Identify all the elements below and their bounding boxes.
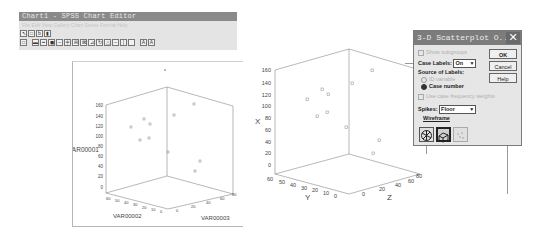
svg-text:20: 20: [265, 150, 271, 156]
svg-text:0: 0: [362, 191, 365, 197]
z-axis-ticks: 0 20 40 60 80: [362, 173, 422, 197]
dialog-title-bar[interactable]: 3-D Scatterplot O... ✕: [414, 31, 521, 45]
svg-text:120: 120: [95, 124, 103, 129]
x-axis-ticks: 60 50 40 30 20 10 0: [106, 196, 163, 214]
chart-editor-window: Chart1 - SPSS Chart Editor File Edit Vie…: [19, 12, 237, 50]
font-button[interactable]: A: [148, 39, 155, 46]
svg-text:60: 60: [220, 196, 225, 201]
svg-text:60: 60: [98, 154, 104, 159]
svg-text:80: 80: [416, 173, 422, 179]
no-wireframe-icon: [454, 129, 467, 142]
svg-text:50: 50: [279, 179, 285, 185]
svg-text:100: 100: [95, 134, 103, 139]
svg-text:140: 140: [262, 80, 271, 86]
svg-text:40: 40: [124, 200, 129, 205]
line-style-button[interactable]: ─: [112, 39, 119, 46]
editor-menu-bar[interactable]: File Edit View Gallery Chart Series Form…: [19, 21, 237, 29]
cancel-button[interactable]: Cancel: [489, 61, 517, 71]
boxplot-button[interactable]: ⊟: [72, 39, 79, 46]
svg-text:40: 40: [98, 164, 104, 169]
line-chart-button[interactable]: ━: [40, 39, 47, 46]
wireframe-label: Wireframe: [423, 115, 450, 121]
svg-text:20: 20: [142, 205, 147, 210]
svg-text:60: 60: [106, 196, 111, 201]
wireframe-none-button[interactable]: [453, 127, 468, 142]
marker-button[interactable]: |: [120, 39, 127, 46]
bold-tool-button[interactable]: b: [36, 30, 43, 37]
svg-text:20: 20: [312, 187, 318, 193]
svg-text:50: 50: [115, 198, 120, 203]
svg-text:10: 10: [151, 207, 156, 212]
show-subgroups-checkbox[interactable]: Show subgroups: [418, 49, 467, 56]
ok-button[interactable]: OK: [489, 49, 517, 59]
toolbar-row-2: □ ▬ ━ ◼ ─ ╪ ⊟ ⊠ ⊿ ↻ △ ─ | A A: [19, 38, 237, 47]
svg-text:0: 0: [334, 193, 337, 199]
svg-text:30: 30: [133, 202, 138, 207]
wireframe-full-button[interactable]: [419, 127, 434, 142]
spikes-select[interactable]: Floor▼: [439, 105, 476, 114]
x-axis-label: VAR00002: [113, 213, 142, 219]
hilo-chart-button[interactable]: ╪: [64, 39, 71, 46]
swap-axes-button[interactable]: ↻: [96, 39, 103, 46]
z-axis-label: Z: [387, 193, 392, 202]
chart-editor-canvas: 160 140 120 100 80 60 40 20 0 VAR00001 6…: [72, 61, 243, 227]
svg-text:80: 80: [232, 192, 237, 197]
guide-line-right: [507, 146, 508, 194]
help-button[interactable]: Help: [489, 73, 517, 83]
data-markers: [130, 103, 201, 172]
text-button[interactable]: A: [140, 39, 147, 46]
toolbar-row-1: ↖ □ b ▮: [19, 29, 237, 38]
spin-button[interactable]: △: [104, 39, 111, 46]
id-variable-radio[interactable]: ID variable: [421, 76, 455, 83]
svg-text:0: 0: [100, 185, 103, 190]
chevron-down-icon: ▼: [469, 106, 474, 113]
color-button[interactable]: [128, 39, 135, 46]
frame-tool-button[interactable]: □: [28, 30, 35, 37]
data-markers: [306, 69, 381, 155]
svg-text:0: 0: [176, 208, 179, 213]
svg-text:140: 140: [95, 114, 103, 119]
scatter-button[interactable]: ⊠: [80, 39, 87, 46]
chart-type-button[interactable]: □: [20, 39, 27, 46]
histogram-button[interactable]: ⊿: [88, 39, 95, 46]
editor-title-bar: Chart1 - SPSS Chart Editor: [19, 12, 237, 21]
bar-chart-button[interactable]: ▬: [32, 39, 39, 46]
svg-text:160: 160: [95, 103, 103, 108]
dialog-title: 3-D Scatterplot O...: [417, 33, 513, 42]
wireframe-partial-button[interactable]: [436, 127, 451, 142]
close-icon[interactable]: ✕: [506, 32, 520, 44]
svg-text:0: 0: [160, 209, 163, 214]
svg-text:80: 80: [265, 115, 271, 121]
svg-text:10: 10: [323, 190, 329, 196]
svg-text:30: 30: [301, 185, 307, 191]
svg-text:60: 60: [408, 178, 414, 184]
x-axis-ticks: 160 140 120 100 80 60 40 20 0: [262, 67, 271, 168]
svg-text:60: 60: [267, 176, 273, 182]
spikes-row: Spikes: Floor▼: [418, 105, 476, 114]
svg-text:40: 40: [206, 200, 211, 205]
svg-text:20: 20: [191, 204, 196, 209]
case-labels-row: Case Labels: On▼: [418, 59, 476, 68]
source-of-labels-heading: Source of Labels:: [418, 69, 464, 75]
use-frequency-weights-checkbox[interactable]: Use case frequency weights: [418, 93, 495, 100]
select-tool-button[interactable]: ↖: [20, 30, 27, 37]
area-chart-button[interactable]: ◼: [48, 39, 55, 46]
svg-text:40: 40: [265, 139, 271, 145]
scatterplot-3d-var: 160 140 120 100 80 60 40 20 0 VAR00001 6…: [73, 62, 243, 226]
svg-text:20: 20: [98, 174, 104, 179]
x-axis-label: X: [255, 117, 261, 126]
case-number-radio[interactable]: Case number: [421, 83, 464, 90]
case-labels-select[interactable]: On▼: [453, 59, 476, 68]
z-axis-label: VAR00003: [201, 215, 230, 221]
svg-text:120: 120: [262, 92, 271, 98]
bar-tool-button[interactable]: ▮: [44, 30, 51, 37]
svg-text:100: 100: [262, 103, 271, 109]
pie-chart-button[interactable]: ─: [56, 39, 63, 46]
svg-text:40: 40: [290, 182, 296, 188]
scatterplot-options-dialog: 3-D Scatterplot O... ✕ Show subgroups Ca…: [413, 30, 522, 146]
y-axis-label: VAR00001: [73, 146, 99, 153]
wireframe-cube-icon: [420, 129, 433, 142]
svg-text:160: 160: [262, 67, 271, 73]
chevron-down-icon: ▼: [470, 60, 475, 67]
svg-text:60: 60: [265, 127, 271, 133]
